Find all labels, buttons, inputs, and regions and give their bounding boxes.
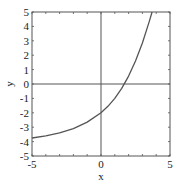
y-tick-label: 1 <box>24 64 30 76</box>
data-series <box>32 12 152 138</box>
tick-labels: -505-5-4-3-2-1012345 <box>20 6 173 170</box>
y-tick-label: -2 <box>20 107 29 119</box>
y-axis-label: y <box>3 81 15 87</box>
y-tick-label: 4 <box>24 20 30 32</box>
chart: -505-5-4-3-2-1012345 x y <box>0 0 180 187</box>
y-tick-label: 3 <box>24 35 30 47</box>
y-tick-label: -4 <box>20 136 30 148</box>
y-tick-label: 5 <box>24 6 30 18</box>
y-tick-label: -3 <box>20 121 30 133</box>
curve-line <box>32 12 152 138</box>
x-tick-label: 5 <box>167 158 173 170</box>
x-tick-label: 0 <box>98 158 104 170</box>
y-tick-label: -5 <box>20 150 30 162</box>
y-tick-label: -1 <box>20 92 29 104</box>
y-tick-label: 2 <box>24 49 30 61</box>
y-tick-label: 0 <box>24 78 30 90</box>
x-axis-label: x <box>98 170 104 182</box>
